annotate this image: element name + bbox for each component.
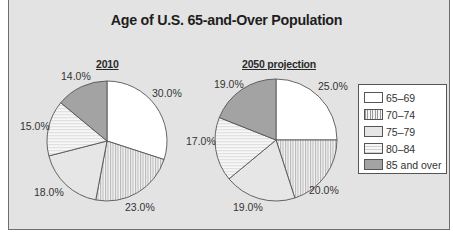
- legend: 65–69 70–74 75–79 80–84 85 and over: [358, 84, 447, 174]
- pie-2010-label-85-over: 14.0%: [61, 70, 91, 82]
- pie-2050-label-85-over: 19.0%: [214, 78, 244, 90]
- swatch-horizontal-lines: [364, 143, 383, 154]
- pie-2050-label-70-74: 20.0%: [309, 184, 339, 196]
- pie-2050-label-75-79: 19.0%: [233, 201, 263, 213]
- swatch-dark-gray: [364, 159, 383, 170]
- legend-item-65-69: 65–69: [364, 91, 415, 104]
- pie-2010-label-80-84: 15.0%: [20, 120, 50, 132]
- pie-2050-label-65-69: 25.0%: [318, 80, 348, 92]
- swatch-light-gray: [364, 126, 383, 137]
- legend-item-80-84: 80–84: [364, 142, 415, 155]
- pie-2010-label-75-79: 18.0%: [34, 186, 64, 198]
- pie-2010-label-70-74: 23.0%: [125, 201, 155, 213]
- legend-item-75-79: 75–79: [364, 125, 415, 138]
- pie-2050-label-80-84: 17.0%: [186, 135, 216, 147]
- pie-2010: [47, 81, 167, 201]
- pie-2010-label-65-69: 30.0%: [152, 87, 182, 99]
- legend-item-70-74: 70–74: [364, 108, 415, 121]
- swatch-white: [364, 92, 383, 103]
- swatch-vertical-lines: [364, 109, 383, 120]
- legend-item-85-over: 85 and over: [364, 158, 441, 171]
- pie-2050: [215, 79, 337, 201]
